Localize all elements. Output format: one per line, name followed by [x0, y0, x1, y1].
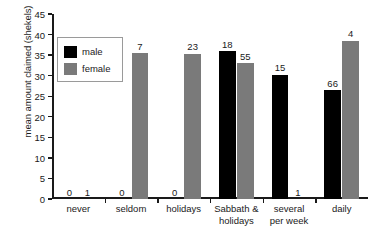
y-tick-label: 5: [40, 173, 45, 184]
legend-label-female: female: [82, 63, 111, 74]
y-tick-label: 45: [34, 9, 45, 20]
category-label: several per week: [270, 203, 309, 226]
y-tick-label: 0: [40, 194, 45, 205]
legend-item-female: female: [64, 60, 122, 77]
y-axis-title: mean amount claimed (shekels): [22, 0, 33, 157]
category-label: never: [66, 203, 90, 215]
bar-male: [324, 90, 341, 199]
x-tick-mark: [210, 199, 211, 203]
x-tick-mark: [105, 199, 106, 203]
category-label: seldom: [116, 203, 147, 215]
bar-chart: mean amount claimed (shekels) 0510152025…: [0, 0, 376, 248]
y-tick-label: 15: [34, 132, 45, 143]
chart-legend: male female: [57, 37, 123, 82]
bar-count-label: 66: [327, 78, 338, 89]
legend-label-male: male: [82, 46, 103, 57]
category-label: daily: [332, 203, 352, 215]
bar-female: [342, 41, 359, 199]
x-tick-mark: [263, 199, 264, 203]
y-tick-label: 35: [34, 50, 45, 61]
female-swatch-icon: [64, 63, 77, 75]
x-tick-mark: [315, 199, 316, 203]
category-label: holidays: [166, 203, 201, 215]
y-tick-label: 20: [34, 111, 45, 122]
x-tick-mark: [157, 199, 158, 203]
y-tick-label: 25: [34, 91, 45, 102]
y-tick-label: 10: [34, 152, 45, 163]
y-tick-label: 30: [34, 70, 45, 81]
y-tick-label: 40: [34, 29, 45, 40]
bar-count-label: 4: [348, 28, 353, 39]
male-swatch-icon: [64, 46, 77, 58]
legend-item-male: male: [64, 43, 122, 60]
category-label: Sabbath & holidays: [214, 203, 258, 226]
